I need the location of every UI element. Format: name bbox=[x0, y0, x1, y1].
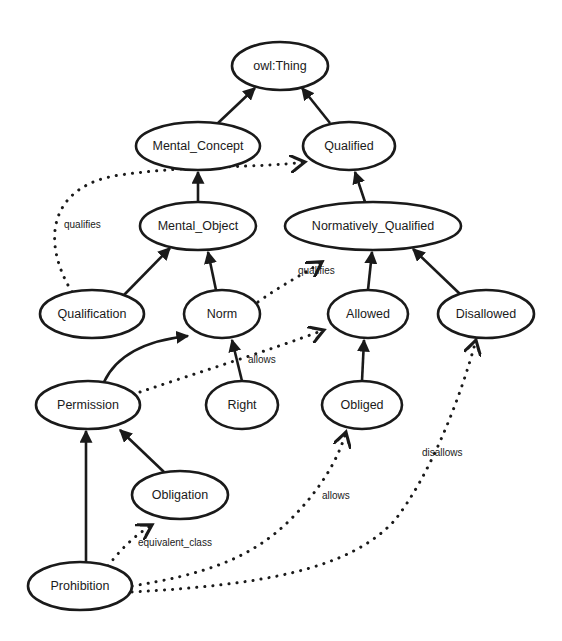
ontology-diagram: qualifiesqualifiesallowsequivalent_class… bbox=[0, 0, 562, 641]
nodes-layer: owl:ThingMental_ConceptQualifiedMental_O… bbox=[28, 42, 534, 610]
node-label: Obliged bbox=[340, 398, 383, 412]
edge-label: allows bbox=[322, 490, 350, 501]
node-label: Disallowed bbox=[456, 307, 516, 321]
node-label: Right bbox=[227, 398, 257, 412]
node-obligation: Obligation bbox=[132, 471, 228, 519]
edge-prohibition-to-disallowed bbox=[132, 340, 476, 592]
node-label: Normatively_Qualified bbox=[312, 219, 434, 233]
edge-label: qualifies bbox=[298, 265, 335, 276]
node-label: Permission bbox=[57, 398, 119, 412]
edge-obliged-to-allowed bbox=[362, 340, 364, 381]
node-label: Qualification bbox=[58, 307, 127, 321]
edge-obligation-to-permission bbox=[120, 430, 164, 472]
node-qualification: Qualification bbox=[40, 290, 144, 338]
edges-layer bbox=[55, 88, 476, 592]
node-label: Allowed bbox=[346, 307, 390, 321]
node-normatively-qualified: Normatively_Qualified bbox=[285, 202, 461, 250]
edge-disallowed-to-normatively_qualified bbox=[413, 249, 460, 294]
node-label: Mental_Concept bbox=[152, 139, 244, 153]
node-label: Obligation bbox=[152, 488, 208, 502]
node-label: Mental_Object bbox=[158, 219, 239, 233]
node-allowed: Allowed bbox=[328, 290, 408, 338]
node-qualified: Qualified bbox=[303, 122, 395, 170]
node-label: Prohibition bbox=[50, 579, 109, 593]
edge-qualified-to-owl_thing bbox=[302, 88, 330, 123]
edge-labels-layer: qualifiesqualifiesallowsequivalent_class… bbox=[64, 219, 463, 548]
edge-label: qualifies bbox=[64, 219, 101, 230]
node-owl-thing: owl:Thing bbox=[232, 42, 328, 90]
node-right: Right bbox=[206, 381, 278, 429]
node-norm: Norm bbox=[184, 290, 260, 338]
edge-label: allows bbox=[248, 354, 276, 365]
node-label: Qualified bbox=[324, 139, 373, 153]
node-obliged: Obliged bbox=[322, 381, 402, 429]
edge-label: equivalent_class bbox=[138, 537, 212, 548]
node-mental-object: Mental_Object bbox=[140, 202, 256, 250]
edge-mental_concept-to-owl_thing bbox=[218, 88, 255, 123]
edge-qualification-to-mental_object bbox=[124, 248, 170, 295]
node-prohibition: Prohibition bbox=[28, 562, 132, 610]
node-permission: Permission bbox=[36, 381, 140, 429]
edge-norm-to-mental_object bbox=[208, 252, 216, 290]
edge-label: disallows bbox=[422, 447, 463, 458]
edge-permission-to-norm bbox=[104, 336, 188, 382]
edge-allowed-to-normatively_qualified bbox=[368, 252, 372, 290]
node-label: Norm bbox=[207, 307, 238, 321]
node-mental-concept: Mental_Concept bbox=[136, 122, 260, 170]
node-label: owl:Thing bbox=[253, 59, 307, 73]
node-disallowed: Disallowed bbox=[438, 290, 534, 338]
edge-normatively_qualified-to-qualified bbox=[355, 172, 365, 202]
